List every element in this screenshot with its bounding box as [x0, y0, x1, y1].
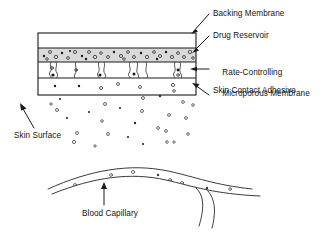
arrow-blood-capillary — [101, 182, 107, 205]
arrow-drug-reservoir — [192, 36, 209, 53]
adhesive-particles — [54, 83, 176, 93]
patch-assembly — [38, 33, 196, 95]
diagram-canvas — [0, 0, 334, 233]
capillary-lower-wall — [52, 176, 260, 196]
patch-layer-borders — [38, 33, 196, 95]
label-skin-contact-adhesive: Skin Contact Adhesive — [213, 86, 296, 97]
capillary-upper-wall — [48, 168, 252, 189]
capillary-branch-right — [206, 189, 214, 228]
capillary-branch-left — [196, 188, 203, 226]
arrow-rate-controlling-membrane — [190, 67, 209, 71]
arrow-backing-membrane — [191, 14, 209, 34]
label-backing-membrane: Backing Membrane — [213, 9, 284, 20]
blood-capillary — [48, 168, 260, 228]
label-drug-reservoir: Drug Reservoir — [213, 31, 269, 42]
label-rate-controlling-microporous-membrane: Rate-Controlling Microporous Membrane — [213, 57, 310, 110]
drug-reservoir-fill — [38, 48, 196, 62]
micropore-channels — [49, 62, 181, 78]
drug-particle-cloud — [50, 95, 195, 147]
label-skin-surface: Skin Surface — [14, 131, 61, 142]
callout-arrows — [20, 14, 209, 205]
transdermal-patch-diagram: Backing Membrane Drug Reservoir Rate-Con… — [0, 0, 334, 233]
label-rate-controlling-line1: Rate-Controlling — [222, 68, 282, 77]
label-blood-capillary: Blood Capillary — [82, 209, 138, 220]
arrow-skin-contact-adhesive — [192, 83, 209, 95]
arrow-skin-surface — [20, 103, 34, 128]
